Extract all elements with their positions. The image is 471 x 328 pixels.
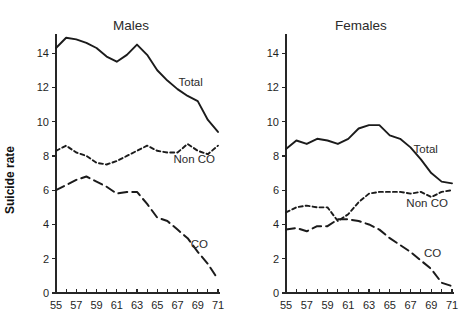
series-label-total: Total [179, 76, 203, 88]
y-tick-label: 0 [273, 287, 279, 299]
y-tick-label: 8 [43, 150, 49, 162]
x-tick-label: 59 [90, 299, 102, 311]
y-tick-label: 14 [267, 47, 279, 59]
y-tick-label: 2 [273, 253, 279, 265]
x-tick-label: 59 [321, 299, 333, 311]
y-tick-label: 4 [43, 218, 49, 230]
y-tick-label: 12 [37, 81, 49, 93]
y-tick-label: 8 [273, 150, 279, 162]
x-tick-label: 61 [111, 299, 123, 311]
panel-title: Females [335, 18, 387, 33]
panel-title: Males [113, 18, 149, 33]
chart-canvas: Suicide rate Males0246810121455575961636… [0, 0, 471, 328]
y-tick-label: 6 [43, 184, 49, 196]
y-tick-label: 12 [267, 81, 279, 93]
x-tick-label: 65 [384, 299, 396, 311]
x-tick-label: 61 [342, 299, 354, 311]
x-tick-label: 65 [151, 299, 163, 311]
x-tick-label: 57 [301, 299, 313, 311]
y-axis-label: Suicide rate [3, 146, 17, 214]
series-label-total: Total [414, 143, 438, 155]
x-tick-label: 71 [446, 299, 458, 311]
x-tick-label: 55 [280, 299, 292, 311]
x-tick-label: 67 [171, 299, 183, 311]
suicide-rate-figure: Suicide rate Males0246810121455575961636… [0, 0, 471, 328]
y-tick-label: 10 [267, 116, 279, 128]
series-label-co: CO [424, 247, 441, 259]
x-tick-label: 63 [363, 299, 375, 311]
x-tick-label: 55 [50, 299, 62, 311]
x-tick-label: 69 [425, 299, 437, 311]
y-tick-label: 2 [43, 253, 49, 265]
series-label-non-co: Non CO [173, 153, 215, 165]
y-tick-label: 14 [37, 47, 49, 59]
y-tick-label: 6 [273, 184, 279, 196]
y-tick-label: 4 [273, 218, 279, 230]
x-tick-label: 71 [212, 299, 224, 311]
y-tick-label: 10 [37, 116, 49, 128]
figure-background [0, 0, 471, 328]
x-tick-label: 67 [404, 299, 416, 311]
series-label-non-co: Non CO [406, 197, 448, 209]
x-tick-label: 69 [192, 299, 204, 311]
x-tick-label: 57 [70, 299, 82, 311]
y-tick-label: 0 [43, 287, 49, 299]
x-tick-label: 63 [131, 299, 143, 311]
series-label-co: CO [191, 238, 208, 250]
